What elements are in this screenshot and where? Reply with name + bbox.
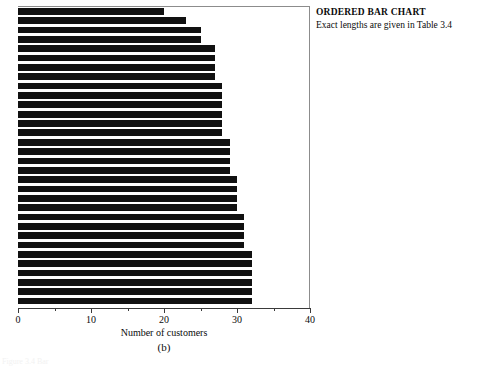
x-tick-major bbox=[18, 308, 19, 313]
annotation-subtitle: Exact lengths are given in Table 3.4 bbox=[316, 19, 484, 31]
annotation-panel: ORDERED BAR CHART Exact lengths are give… bbox=[316, 6, 484, 31]
bar-row bbox=[18, 298, 310, 305]
bar bbox=[18, 251, 252, 258]
bar-row bbox=[18, 36, 310, 43]
bar bbox=[18, 214, 244, 221]
bar bbox=[18, 204, 237, 211]
bar-row bbox=[18, 139, 310, 146]
bar-row bbox=[18, 73, 310, 80]
bar-row bbox=[18, 223, 310, 230]
bar-row bbox=[18, 242, 310, 249]
bar bbox=[18, 232, 244, 239]
bar-row bbox=[18, 270, 310, 277]
bar-row bbox=[18, 55, 310, 62]
bar bbox=[18, 73, 215, 80]
x-axis-title: Number of customers bbox=[18, 327, 310, 339]
bar bbox=[18, 223, 244, 230]
x-tick-major bbox=[237, 308, 238, 313]
bar bbox=[18, 8, 164, 15]
bar bbox=[18, 298, 252, 305]
bar bbox=[18, 111, 222, 118]
x-tick-label: 10 bbox=[86, 314, 96, 325]
x-tick-major bbox=[310, 308, 311, 313]
bar-row bbox=[18, 64, 310, 71]
x-tick-minor bbox=[55, 308, 56, 311]
bar bbox=[18, 27, 201, 34]
bar bbox=[18, 186, 237, 193]
bar bbox=[18, 176, 237, 183]
panel-caption: (b) bbox=[18, 341, 310, 354]
bar bbox=[18, 129, 222, 136]
bar bbox=[18, 288, 252, 295]
bar-row bbox=[18, 251, 310, 258]
bar-row bbox=[18, 167, 310, 174]
bar bbox=[18, 148, 230, 155]
bar bbox=[18, 83, 222, 90]
x-tick-major bbox=[91, 308, 92, 313]
annotation-title: ORDERED BAR CHART bbox=[316, 6, 484, 18]
bar-row bbox=[18, 8, 310, 15]
bar-row bbox=[18, 129, 310, 136]
bar-row bbox=[18, 27, 310, 34]
bar-row bbox=[18, 92, 310, 99]
x-tick-label: 40 bbox=[305, 314, 315, 325]
bar-row bbox=[18, 195, 310, 202]
bar-row bbox=[18, 186, 310, 193]
bar-row bbox=[18, 204, 310, 211]
x-tick-label: 20 bbox=[159, 314, 169, 325]
bar-row bbox=[18, 260, 310, 267]
bar bbox=[18, 120, 222, 127]
bar bbox=[18, 64, 215, 71]
bar bbox=[18, 92, 222, 99]
bar-row bbox=[18, 176, 310, 183]
bar bbox=[18, 139, 230, 146]
bar-row bbox=[18, 279, 310, 286]
bar bbox=[18, 55, 215, 62]
bar bbox=[18, 17, 186, 24]
bar bbox=[18, 279, 252, 286]
bar-row bbox=[18, 17, 310, 24]
bar-row bbox=[18, 288, 310, 295]
bar bbox=[18, 260, 252, 267]
x-tick-label: 30 bbox=[232, 314, 242, 325]
bar bbox=[18, 195, 237, 202]
x-tick-minor bbox=[201, 308, 202, 311]
bar bbox=[18, 270, 252, 277]
figure-caption: Figure 3.4 Bar bbox=[2, 357, 48, 367]
bar-row bbox=[18, 158, 310, 165]
x-tick-minor bbox=[128, 308, 129, 311]
bar-row bbox=[18, 83, 310, 90]
bar bbox=[18, 167, 230, 174]
bar bbox=[18, 242, 244, 249]
bar bbox=[18, 101, 222, 108]
bar-row bbox=[18, 101, 310, 108]
bar-row bbox=[18, 45, 310, 52]
bar-series bbox=[18, 8, 310, 307]
bar-row bbox=[18, 232, 310, 239]
bar bbox=[18, 158, 230, 165]
bar-row bbox=[18, 214, 310, 221]
bar bbox=[18, 36, 201, 43]
bar-row bbox=[18, 111, 310, 118]
x-tick-label: 0 bbox=[16, 314, 21, 325]
x-tick-minor bbox=[274, 308, 275, 311]
bar bbox=[18, 45, 215, 52]
bar-row bbox=[18, 120, 310, 127]
bar-row bbox=[18, 148, 310, 155]
x-tick-major bbox=[164, 308, 165, 313]
